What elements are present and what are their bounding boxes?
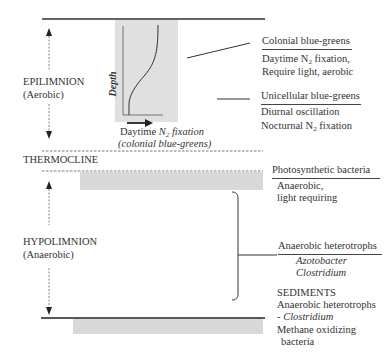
hypolimnion-brace xyxy=(232,192,238,300)
sediments-line3: Methane oxidizing xyxy=(277,324,356,336)
sediment-band xyxy=(73,319,263,334)
colonial-line2: Require light, aerobic xyxy=(262,66,353,78)
anaerobic-heterotrophs-line1: Azotobacter xyxy=(296,255,347,267)
sediments-line4: bacteria xyxy=(281,336,314,348)
photosynthetic-line1: Anaerobic, xyxy=(277,180,323,192)
photosynthetic-bacteria-band xyxy=(80,172,263,190)
photosynthetic-line2: light requiring xyxy=(277,192,337,204)
sediments-line1: Anaerobic heterotrophs xyxy=(277,299,376,311)
colonial-line1: Daytime N2 fixation, xyxy=(262,53,350,65)
epilimnion-up-arrowhead-icon xyxy=(46,28,52,36)
inset-x-axis-label: Daytime N2 fixation xyxy=(120,126,204,138)
colonial-pointer-line xyxy=(187,43,250,58)
anaerobic-heterotrophs-title: Anaerobic heterotrophs xyxy=(278,240,382,255)
epilimnion-down-arrowhead-icon xyxy=(46,131,52,139)
unicellular-line2: Nocturnal N2 fixation xyxy=(261,120,352,132)
unicellular-title: Unicellular blue-greens xyxy=(261,90,361,105)
epilimnion-condition: (Aerobic) xyxy=(23,89,64,101)
thermocline-label: THERMOCLINE xyxy=(23,154,98,166)
inset-y-axis-label: Depth xyxy=(107,72,119,97)
hypolimnion-down-arrowhead-icon xyxy=(46,307,52,315)
hypolimnion-label: HYPOLIMNION xyxy=(23,236,97,248)
colonial-title: Colonial blue-greens xyxy=(262,35,352,50)
anaerobic-heterotrophs-line2: Clostridium xyxy=(296,267,346,279)
epilimnion-label: EPILIMNION xyxy=(23,76,84,88)
inset-x-axis-caption: (colonial blue-greens) xyxy=(118,138,211,150)
sediments-title: SEDIMENTS xyxy=(277,287,336,299)
hypolimnion-condition: (Anaerobic) xyxy=(23,249,74,261)
inset-graph-panel xyxy=(115,20,178,122)
photosynthetic-title: Photosynthetic bacteria xyxy=(272,164,380,179)
hypolimnion-up-arrowhead-icon xyxy=(46,181,52,189)
sediments-line2: - Clostridium xyxy=(277,311,333,323)
unicellular-line1: Diurnal oscillation xyxy=(261,106,339,118)
